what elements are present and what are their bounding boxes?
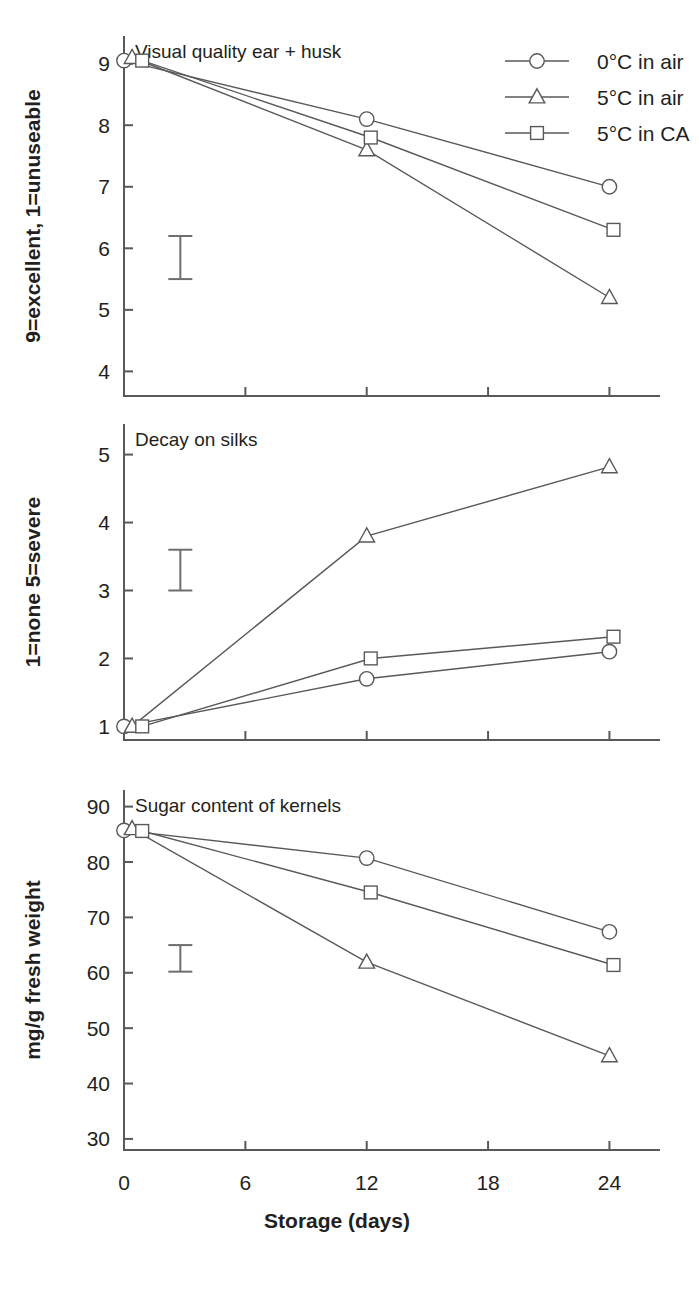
legend-label-1: 0°C in air <box>597 50 684 73</box>
data-point-2-3-2 <box>607 630 620 643</box>
legend-label-2: 5°C in air <box>597 86 684 109</box>
legend: 0°C in air5°C in air5°C in CA <box>505 50 689 145</box>
y-tick-label-2-4: 4 <box>98 511 110 534</box>
panel-title-2: Decay on silks <box>135 429 258 450</box>
y-tick-label-2-2: 2 <box>98 647 110 670</box>
circle-marker-icon <box>530 54 544 68</box>
y-tick-label-1-5: 5 <box>98 298 110 321</box>
y-tick-label-3-40: 40 <box>87 1072 110 1095</box>
lsd-error-bar-1 <box>168 236 192 279</box>
y-tick-label-3-50: 50 <box>87 1017 110 1040</box>
x-axis-shared: 06121824Storage (days) <box>118 1171 621 1232</box>
data-point-2-2-2 <box>602 459 618 473</box>
data-point-3-2-2 <box>602 1048 618 1062</box>
data-point-2-1-1 <box>360 672 374 686</box>
y-axis-title-3: mg/g fresh weight <box>21 880 44 1060</box>
y-tick-label-3-60: 60 <box>87 961 110 984</box>
figure-three-panel-chart: 456789Visual quality ear + husk9=excelle… <box>0 0 699 1289</box>
y-tick-label-1-8: 8 <box>98 114 110 137</box>
data-point-1-3-1 <box>364 131 377 144</box>
y-tick-label-1-9: 9 <box>98 52 110 75</box>
y-tick-label-2-5: 5 <box>98 443 110 466</box>
series-line-2-2 <box>132 467 609 727</box>
y-tick-label-2-1: 1 <box>98 715 110 738</box>
series-line-2-3 <box>142 637 613 727</box>
data-point-3-2-1 <box>359 954 375 968</box>
y-tick-label-3-80: 80 <box>87 851 110 874</box>
data-point-1-3-0 <box>136 54 149 67</box>
x-tick-label-0: 0 <box>118 1171 130 1194</box>
data-point-3-3-1 <box>364 886 377 899</box>
panel-axes-3 <box>124 790 660 1150</box>
x-tick-label-6: 6 <box>240 1171 252 1194</box>
x-tick-label-24: 24 <box>598 1171 622 1194</box>
y-tick-label-3-70: 70 <box>87 906 110 929</box>
panel-axes-1 <box>124 36 660 396</box>
chart-panel-2: 12345Decay on silks1=none 5=severe <box>21 424 660 740</box>
y-tick-label-1-4: 4 <box>98 360 110 383</box>
lsd-error-bar-2 <box>168 550 192 591</box>
series-line-1-3 <box>142 61 613 230</box>
data-point-2-3-0 <box>136 720 149 733</box>
y-tick-label-1-6: 6 <box>98 237 110 260</box>
data-point-3-3-0 <box>136 825 149 838</box>
data-point-1-2-2 <box>602 289 618 303</box>
panel-axes-2 <box>124 424 660 740</box>
data-point-1-3-2 <box>607 223 620 236</box>
y-axis-title-2: 1=none 5=severe <box>21 497 44 667</box>
y-tick-label-2-3: 3 <box>98 579 110 602</box>
chart-panel-3: 30405060708090Sugar content of kernelsmg… <box>21 790 660 1150</box>
y-axis-title-1: 9=excellent, 1=unuseable <box>21 89 44 342</box>
x-tick-label-18: 18 <box>476 1171 499 1194</box>
legend-label-3: 5°C in CA <box>597 122 689 145</box>
panel-title-1: Visual quality ear + husk <box>135 41 342 62</box>
x-axis-title: Storage (days) <box>264 1209 410 1232</box>
data-point-3-3-2 <box>607 959 620 972</box>
chart-panel-1: 456789Visual quality ear + husk9=excelle… <box>21 36 660 396</box>
square-marker-icon <box>531 127 544 140</box>
data-point-3-1-1 <box>360 851 374 865</box>
legend-item-1: 0°C in air <box>505 50 684 73</box>
data-point-2-1-2 <box>602 644 616 658</box>
data-point-2-3-1 <box>364 652 377 665</box>
y-tick-label-1-7: 7 <box>98 175 110 198</box>
y-tick-label-3-30: 30 <box>87 1127 110 1150</box>
lsd-error-bar-3 <box>168 945 192 972</box>
data-point-1-1-1 <box>360 112 374 126</box>
legend-item-3: 5°C in CA <box>505 122 689 145</box>
triangle-marker-icon <box>529 89 545 103</box>
legend-item-2: 5°C in air <box>505 86 684 109</box>
panel-title-3: Sugar content of kernels <box>135 795 341 816</box>
data-point-1-1-2 <box>602 180 616 194</box>
data-point-3-1-2 <box>602 925 616 939</box>
y-tick-label-3-90: 90 <box>87 795 110 818</box>
x-tick-label-12: 12 <box>355 1171 378 1194</box>
